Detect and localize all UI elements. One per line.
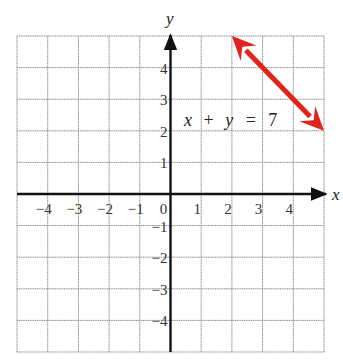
y-tick-label: −1 [152, 219, 168, 235]
equation-x: x [183, 110, 192, 130]
equation-y: y [223, 110, 233, 130]
equation-equals: = [246, 110, 256, 130]
y-tick-label: −3 [152, 282, 168, 298]
y-tick-label: −2 [152, 250, 168, 266]
x-tick-label: −3 [66, 201, 82, 217]
x-tick-label: 2 [224, 201, 232, 217]
y-tick-label: 1 [160, 155, 168, 171]
coordinate-plane: −4−3−2−1012344321−1−2−3−4 x y x + y = 7 [0, 0, 343, 361]
equation-rhs: 7 [268, 110, 277, 130]
x-tick-label: −4 [36, 201, 52, 217]
x-axis-label: x [331, 185, 340, 204]
x-tick-label: 0 [160, 201, 168, 217]
x-tick-label: 4 [286, 201, 294, 217]
line-shaft [246, 50, 310, 116]
y-tick-label: 2 [160, 124, 168, 140]
y-axis-label: y [164, 9, 174, 28]
equation-label: x + y = 7 [183, 110, 277, 130]
x-tick-label: 1 [193, 201, 201, 217]
x-tick-label: −1 [128, 201, 144, 217]
y-tick-label: 4 [160, 61, 168, 77]
x-tick-label: −2 [97, 201, 113, 217]
equation-plus: + [204, 110, 214, 130]
x-tick-label: 3 [255, 201, 263, 217]
y-tick-label: 3 [160, 92, 168, 108]
y-tick-label: −4 [152, 313, 168, 329]
